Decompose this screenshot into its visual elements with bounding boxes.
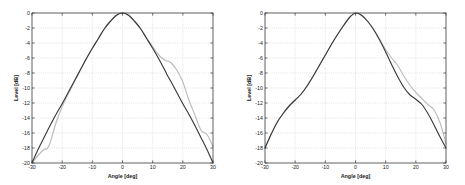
y-tick-label: -2: [25, 25, 30, 31]
x-tick-label: -10: [89, 164, 97, 170]
x-tick-label: -30: [261, 164, 269, 170]
y-tick-label: -18: [22, 145, 30, 151]
x-tick-label: 0: [121, 164, 124, 170]
x-tick-label: 10: [383, 164, 389, 170]
y-axis-label: Level [dB]: [13, 75, 19, 101]
x-tick-label: -30: [28, 164, 36, 170]
y-tick-label: -14: [255, 115, 263, 121]
x-tick-label: 20: [180, 164, 186, 170]
x-tick-label: -20: [291, 164, 299, 170]
x-axis-label: Angle [deg]: [341, 173, 371, 179]
y-tick-label: -16: [255, 130, 263, 136]
y-tick-label: -10: [22, 85, 30, 91]
y-tick-label: -14: [22, 115, 30, 121]
y-tick-label: -2: [258, 25, 263, 31]
y-tick-label: -6: [25, 55, 30, 61]
figure-canvas: 0-2-4-6-8-10-12-14-16-18-20-30-20-100102…: [0, 0, 465, 185]
x-tick-label: 10: [150, 164, 156, 170]
y-tick-label: -8: [25, 70, 30, 76]
axis-ticks: 0-2-4-6-8-10-12-14-16-18-20-30-20-100102…: [22, 10, 216, 171]
x-axis-label: Angle [deg]: [108, 173, 138, 179]
chart-panel-left: 0-2-4-6-8-10-12-14-16-18-20-30-20-100102…: [0, 0, 232, 185]
y-tick-label: 0: [260, 10, 263, 16]
x-tick-label: 30: [443, 164, 449, 170]
x-tick-label: 20: [413, 164, 419, 170]
gridlines: [32, 13, 213, 163]
y-tick-label: 0: [27, 10, 30, 16]
y-tick-label: -4: [258, 40, 263, 46]
chart-panel-right: 0-2-4-6-8-10-12-14-16-18-20-30-20-100102…: [233, 0, 465, 185]
y-tick-label: -4: [25, 40, 30, 46]
y-axis-label: Level [dB]: [246, 75, 252, 101]
x-tick-label: -20: [58, 164, 66, 170]
x-tick-label: 0: [354, 164, 357, 170]
y-tick-label: -8: [258, 70, 263, 76]
line-chart-right: 0-2-4-6-8-10-12-14-16-18-20-30-20-100102…: [233, 0, 465, 185]
x-tick-label: -10: [322, 164, 330, 170]
axis-ticks: 0-2-4-6-8-10-12-14-16-18-20-30-20-100102…: [255, 10, 449, 171]
gridlines: [265, 13, 446, 163]
line-chart-left: 0-2-4-6-8-10-12-14-16-18-20-30-20-100102…: [0, 0, 232, 185]
y-tick-label: -10: [255, 85, 263, 91]
x-tick-label: 30: [210, 164, 216, 170]
y-tick-label: -12: [22, 100, 30, 106]
y-tick-label: -12: [255, 100, 263, 106]
y-tick-label: -6: [258, 55, 263, 61]
y-tick-label: -16: [22, 130, 30, 136]
y-tick-label: -18: [255, 145, 263, 151]
